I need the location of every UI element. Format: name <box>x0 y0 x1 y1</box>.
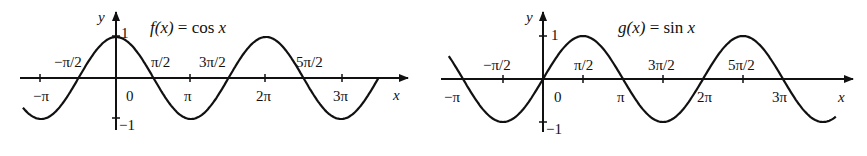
tick-label-zero: 0 <box>126 88 134 104</box>
tick-label-neg1: −1 <box>119 117 135 133</box>
tick-label-three-half-pi: 3π/2 <box>199 54 226 70</box>
chart-title: f(x) = cos x <box>150 18 227 37</box>
tick-label-two-pi: 2π <box>697 89 713 105</box>
tick-label-half-pi: π/2 <box>151 54 170 70</box>
chart-title: g(x) = sin x <box>618 18 696 37</box>
tick-label-neg-half-pi: −π/2 <box>483 57 511 73</box>
tick-label-half-pi: π/2 <box>574 57 593 73</box>
tick-label-five-half-pi: 5π/2 <box>728 57 755 73</box>
x-axis-label: x <box>392 87 400 103</box>
tick-label-neg-half-pi: −π/2 <box>54 54 82 70</box>
tick-label-neg-pi: −π <box>444 89 460 105</box>
tick-label-1: 1 <box>551 27 559 43</box>
tick-label-neg-pi: −π <box>33 88 49 104</box>
sin-chart: y x g(x) = sin x 1 −1 −π −π/2 0 π/2 π 3π… <box>441 9 853 137</box>
x-axis-label: x <box>837 89 845 105</box>
tick-label-two-pi: 2π <box>256 88 272 104</box>
tick-label-three-half-pi: 3π/2 <box>648 57 675 73</box>
tick-label-pi: π <box>617 89 625 105</box>
cos-chart: y x f(x) = cos x 1 −1 −π −π/2 0 π/2 π 3π… <box>20 9 408 133</box>
tick-label-five-half-pi: 5π/2 <box>296 54 323 70</box>
tick-label-three-pi: 3π <box>772 89 788 105</box>
tick-label-neg1: −1 <box>546 121 562 137</box>
y-axis-label: y <box>524 9 533 25</box>
y-axis-label: y <box>96 9 105 25</box>
tick-label-zero: 0 <box>554 89 562 105</box>
trig-graphs: y x f(x) = cos x 1 −1 −π −π/2 0 π/2 π 3π… <box>0 0 867 156</box>
tick-label-pi: π <box>184 88 192 104</box>
tick-label-1: 1 <box>121 25 129 41</box>
tick-label-three-pi: 3π <box>333 88 349 104</box>
